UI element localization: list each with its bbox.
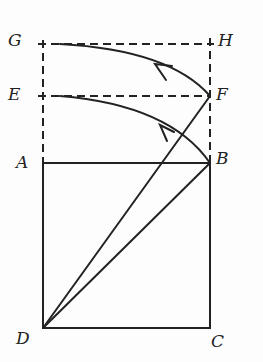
arc-be: [60, 96, 210, 163]
label-g: G: [8, 32, 22, 49]
label-d: D: [16, 330, 30, 347]
label-f: F: [216, 86, 228, 103]
segment-df: [43, 96, 210, 328]
label-c: C: [211, 333, 224, 350]
geometry-diagram: G H E F A B D C: [0, 0, 263, 362]
arrow-icon: [155, 64, 172, 80]
label-e: E: [8, 86, 20, 103]
label-h: H: [218, 32, 233, 49]
label-a: A: [16, 154, 28, 171]
arc-fg: [60, 44, 210, 96]
diagram-drawing: [0, 0, 263, 362]
segment-db: [43, 163, 210, 328]
label-b: B: [216, 150, 229, 167]
